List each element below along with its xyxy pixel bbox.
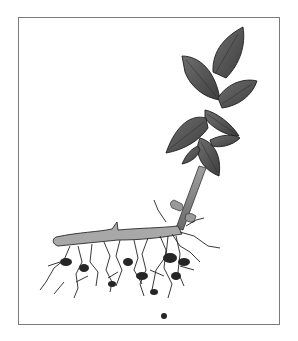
plant-illustration — [0, 0, 298, 341]
leaves — [166, 27, 257, 176]
leaf-lower-right — [210, 135, 240, 147]
root-soil-clumps — [60, 253, 190, 319]
leaf-mid-right — [205, 110, 239, 136]
leaf-lower-left — [182, 146, 200, 164]
leaf-top — [213, 27, 244, 78]
stem — [170, 166, 206, 230]
